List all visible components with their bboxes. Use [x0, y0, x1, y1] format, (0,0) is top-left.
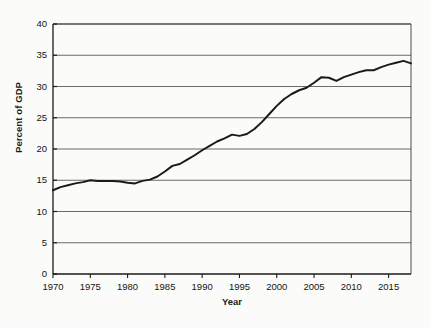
chart-container: Percent of GDP Year 0510152025303540 197…: [0, 0, 430, 328]
y-tick-label: 5: [17, 238, 47, 248]
y-tick-label: 25: [17, 113, 47, 123]
y-tick-label: 30: [17, 82, 47, 92]
y-tick-label: 35: [17, 50, 47, 60]
y-tick-label: 0: [17, 269, 47, 279]
chart-plot-area: [0, 0, 430, 328]
x-tick-label: 2015: [367, 282, 411, 292]
y-tick-label: 40: [17, 19, 47, 29]
y-tick-label: 20: [17, 144, 47, 154]
y-tick-label: 10: [17, 207, 47, 217]
y-tick-label: 15: [17, 175, 47, 185]
